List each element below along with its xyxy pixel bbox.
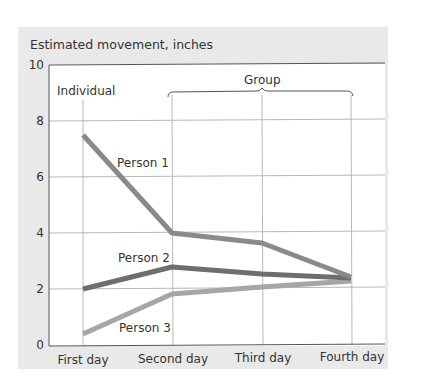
person-1-label: Person 1 (117, 156, 169, 170)
x-tick-first-day: First day (38, 353, 128, 367)
y-tick-6: 6 (24, 170, 44, 184)
group-brace (168, 88, 353, 97)
group-label: Group (244, 73, 281, 87)
person-2-label: Person 2 (118, 251, 170, 265)
y-tick-4: 4 (24, 226, 44, 240)
gridlines (49, 95, 385, 345)
x-tick-second-day: Second day (128, 352, 218, 366)
axes (49, 63, 385, 346)
person-3-label: Person 3 (119, 321, 171, 335)
individual-label: Individual (57, 84, 115, 98)
x-tick-fourth-day: Fourth day (307, 350, 397, 364)
x-tick-third-day: Third day (218, 351, 308, 365)
y-tick-8: 8 (24, 114, 44, 128)
y-tick-0: 0 (24, 338, 44, 352)
chart-svg (0, 0, 425, 387)
y-tick-2: 2 (24, 282, 44, 296)
y-tick-10: 10 (24, 58, 44, 72)
